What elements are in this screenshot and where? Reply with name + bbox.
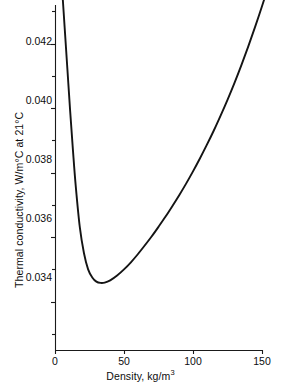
x-axis-label: Density, kg/m3 xyxy=(0,368,281,382)
x-tick-label-0: 0 xyxy=(35,355,75,367)
x-axis-tick-labels: 0 50 100 150 xyxy=(0,0,281,388)
x-axis-label-text: Density, kg/m xyxy=(106,370,170,382)
chart-figure: Thermal conductivity, W/m°C at 21°C 0.03… xyxy=(0,0,281,388)
x-tick-label-50: 50 xyxy=(104,355,144,367)
x-tick-label-150: 150 xyxy=(242,355,281,367)
x-tick-label-100: 100 xyxy=(173,355,213,367)
x-axis-label-exponent: 3 xyxy=(170,368,174,377)
